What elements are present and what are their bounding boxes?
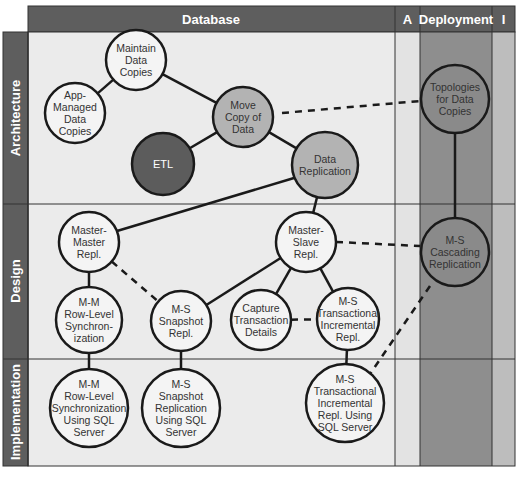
node-mstrans[interactable]: M-STransactionalIncrementalRepl.	[317, 288, 380, 350]
node-label-line: ETL	[153, 158, 173, 170]
node-label-line: for Data	[436, 93, 474, 105]
node-label-line: Topologies	[430, 81, 480, 93]
node-label-line: Repl.	[169, 327, 194, 339]
node-label-line: SQL Server	[318, 421, 373, 433]
node-label-line: Snapshot	[159, 315, 203, 327]
node-label-line: Master-	[288, 224, 324, 236]
node-mssnapshot[interactable]: M-SSnapshotRepl.	[151, 291, 211, 351]
node-label-line: Repl.	[294, 248, 319, 260]
node-topologies[interactable]: Topologiesfor DataCopies	[421, 65, 489, 133]
node-label-line: Snapshot	[159, 390, 203, 402]
node-datarepl[interactable]: DataReplication	[292, 132, 358, 198]
column-header-a: A	[403, 12, 413, 27]
node-label-line: Synchronization	[52, 402, 127, 414]
node-label-line: M-S	[335, 373, 354, 385]
node-label-line: Incremental	[318, 397, 373, 409]
node-label-line: Incremental	[321, 319, 376, 331]
node-label-line: Replication	[155, 402, 207, 414]
node-label-line: Replication	[429, 258, 481, 270]
node-maintain[interactable]: MaintainDataCopies	[106, 30, 166, 90]
node-label-line: App-	[64, 89, 87, 101]
node-label-line: Slave	[293, 236, 319, 248]
node-label-line: Master-	[71, 224, 107, 236]
node-label-line: Copies	[120, 66, 153, 78]
node-mmrowsql[interactable]: M-MRow-LevelSynchronizationUsing SQLServ…	[50, 369, 128, 447]
node-label-line: Maintain	[116, 42, 156, 54]
node-label-line: Synchron-	[65, 320, 113, 332]
node-label-line: Master	[73, 236, 106, 248]
node-label-line: Data	[314, 153, 336, 165]
node-mmrowsync[interactable]: M-MRow-LevelSynchron-ization	[56, 287, 122, 353]
node-label-line: Repl.	[336, 331, 361, 343]
node-capture[interactable]: CaptureTransactionDetails	[231, 290, 291, 350]
node-label-line: M-S	[338, 295, 357, 307]
node-label-line: Server	[74, 426, 105, 438]
node-mstranssql[interactable]: M-STransactionalIncrementalRepl. UsingSQ…	[306, 364, 384, 442]
node-label-line: Using SQL	[64, 414, 115, 426]
node-label-line: Data	[232, 123, 254, 135]
node-label-line: Repl.	[77, 248, 102, 260]
node-label-line: M-M	[79, 296, 100, 308]
a-column-area	[395, 32, 420, 466]
node-label-line: Transactional	[314, 385, 377, 397]
node-label-line: ization	[74, 332, 105, 344]
row-header-architecture: Architecture	[8, 80, 23, 157]
node-label-line: Copy of	[225, 111, 261, 123]
node-label-line: Data	[64, 113, 86, 125]
node-etl[interactable]: ETL	[132, 133, 194, 195]
architecture-matrix-diagram: Database A Deployment I Architecture Des…	[0, 0, 518, 481]
node-label-line: Using SQL	[156, 414, 207, 426]
row-headers: Architecture Design Implementation	[8, 80, 23, 460]
node-label-line: M-S	[445, 234, 464, 246]
node-label-line: Copies	[439, 105, 472, 117]
column-header-database: Database	[182, 12, 240, 27]
node-label-line: Row-Level	[64, 308, 114, 320]
node-mssnapsql[interactable]: M-SSnapshotReplicationUsing SQLServer	[142, 369, 220, 447]
node-label-line: M-S	[171, 378, 190, 390]
node-label-line: M-S	[171, 303, 190, 315]
node-mmrepl[interactable]: Master-MasterRepl.	[59, 212, 119, 272]
node-movecopy[interactable]: MoveCopy ofData	[213, 87, 273, 147]
i-column-area	[492, 32, 515, 466]
column-header-i: I	[502, 12, 506, 27]
node-label-line: Row-Level	[64, 390, 114, 402]
node-label-line: Move	[230, 99, 256, 111]
node-label-line: Transactional	[317, 307, 380, 319]
node-cascading[interactable]: M-SCascadingReplication	[421, 218, 489, 286]
node-label-line: Managed	[53, 101, 97, 113]
node-label-line: Repl. Using	[318, 409, 372, 421]
node-label-line: Server	[166, 426, 197, 438]
node-appmanaged[interactable]: App-ManagedDataCopies	[45, 83, 105, 143]
node-label-line: Copies	[59, 125, 92, 137]
node-label-line: Cascading	[430, 246, 480, 258]
column-header-deployment: Deployment	[419, 12, 494, 27]
node-label-line: Details	[245, 326, 277, 338]
node-label-line: M-M	[79, 378, 100, 390]
row-header-design: Design	[8, 259, 23, 302]
row-header-implementation: Implementation	[8, 364, 23, 460]
edge-mstrans-mstranssql	[346, 350, 347, 364]
node-label-line: Transaction	[234, 314, 289, 326]
node-msrepl[interactable]: Master-SlaveRepl.	[276, 212, 336, 272]
node-label-line: Data	[125, 54, 147, 66]
node-label-line: Capture	[242, 302, 280, 314]
node-label-line: Replication	[299, 165, 351, 177]
